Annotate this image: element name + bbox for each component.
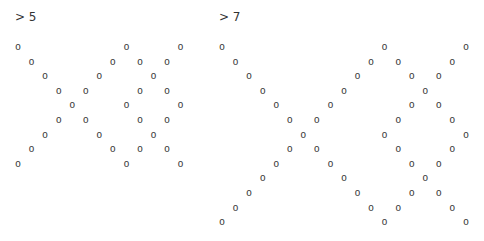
pattern-char: o <box>395 57 401 67</box>
pattern-char: o <box>137 86 143 96</box>
pattern-char: o <box>123 42 129 52</box>
pattern-char: o <box>56 115 62 125</box>
pattern-char: o <box>137 115 143 125</box>
pattern-char: o <box>395 115 401 125</box>
pattern-char: o <box>178 100 184 110</box>
pattern-char: o <box>341 173 347 183</box>
pattern-char: o <box>382 42 388 52</box>
pattern-char: o <box>164 144 170 154</box>
pattern-char: o <box>123 100 129 110</box>
pattern-char: o <box>449 115 455 125</box>
pattern-char: o <box>409 188 415 198</box>
pattern-char: o <box>409 159 415 169</box>
pattern-char: o <box>436 71 442 81</box>
pattern-char: o <box>29 57 35 67</box>
pattern-char: o <box>382 130 388 140</box>
pattern-char: o <box>463 130 469 140</box>
pattern-char: o <box>164 57 170 67</box>
pattern-char: o <box>137 57 143 67</box>
pattern-char: o <box>15 42 21 52</box>
pattern-char: o <box>150 71 156 81</box>
pattern-char: o <box>260 86 266 96</box>
pattern-char: o <box>436 188 442 198</box>
pattern-char: o <box>327 100 333 110</box>
pattern-char: o <box>246 188 252 198</box>
pattern-char: o <box>178 159 184 169</box>
pattern-char: o <box>273 159 279 169</box>
pattern-char: o <box>422 173 428 183</box>
pattern-char: o <box>83 86 89 96</box>
pattern-char: o <box>110 144 116 154</box>
pattern-char: o <box>368 57 374 67</box>
pattern-char: o <box>436 159 442 169</box>
pattern-char: o <box>463 217 469 227</box>
pattern-char: o <box>164 86 170 96</box>
pattern-char: o <box>42 130 48 140</box>
pattern-char: o <box>354 71 360 81</box>
pattern-char: o <box>69 100 75 110</box>
pattern-char: o <box>96 130 102 140</box>
pattern-char: o <box>219 42 225 52</box>
pattern-char: o <box>395 144 401 154</box>
pattern-char: o <box>260 173 266 183</box>
pattern-char: o <box>314 144 320 154</box>
pattern-char: o <box>300 130 306 140</box>
pattern-char: o <box>449 203 455 213</box>
pattern-char: o <box>463 42 469 52</box>
pattern-char: o <box>354 188 360 198</box>
pattern-char: o <box>219 217 225 227</box>
pattern-char: o <box>327 159 333 169</box>
pattern-char: o <box>287 115 293 125</box>
pattern-char: o <box>368 203 374 213</box>
pattern-char: o <box>273 100 279 110</box>
pattern-char: o <box>382 217 388 227</box>
pattern-char: o <box>137 144 143 154</box>
pattern-char: o <box>287 144 293 154</box>
pattern-char: o <box>314 115 320 125</box>
pattern-char: o <box>15 159 21 169</box>
pattern-char: o <box>56 86 62 96</box>
pattern-char: o <box>246 71 252 81</box>
pattern-char: o <box>233 203 239 213</box>
pattern-char: o <box>110 57 116 67</box>
pattern-char: o <box>233 57 239 67</box>
pattern-char: o <box>123 159 129 169</box>
pattern-char: o <box>409 71 415 81</box>
pattern-char: o <box>436 100 442 110</box>
pattern-char: o <box>341 86 347 96</box>
prompt-text: > 7 <box>219 10 241 24</box>
pattern-char: o <box>409 100 415 110</box>
pattern-char: o <box>29 144 35 154</box>
pattern-char: o <box>83 115 89 125</box>
pattern-char: o <box>395 203 401 213</box>
pattern-char: o <box>422 86 428 96</box>
pattern-char: o <box>150 130 156 140</box>
prompt-text: > 5 <box>15 10 37 24</box>
pattern-char: o <box>178 42 184 52</box>
pattern-char: o <box>449 57 455 67</box>
pattern-char: o <box>42 71 48 81</box>
pattern-char: o <box>164 115 170 125</box>
pattern-char: o <box>96 71 102 81</box>
pattern-char: o <box>449 144 455 154</box>
